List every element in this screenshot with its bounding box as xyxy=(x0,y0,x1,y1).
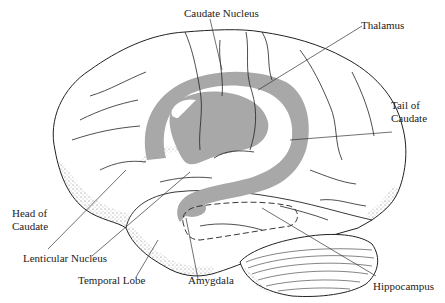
label-thalamus: Thalamus xyxy=(361,19,404,32)
label-hippocampus: Hippocampus xyxy=(373,280,434,293)
label-amygdala: Amygdala xyxy=(188,274,234,287)
label-tail-of-caudate-line1: Tail of xyxy=(391,99,420,112)
label-head-of-caudate-line2: Caudate xyxy=(12,220,48,233)
label-tail-of-caudate-line2: Caudate xyxy=(391,112,427,125)
label-temporal-lobe: Temporal Lobe xyxy=(78,274,145,287)
label-caudate-nucleus: Caudate Nucleus xyxy=(184,7,259,20)
label-head-of-caudate-line1: Head of xyxy=(12,207,47,220)
brain-diagram: Caudate Nucleus Thalamus Tail of Caudate… xyxy=(0,0,445,303)
label-lenticular-nucleus: Lenticular Nucleus xyxy=(23,252,107,265)
